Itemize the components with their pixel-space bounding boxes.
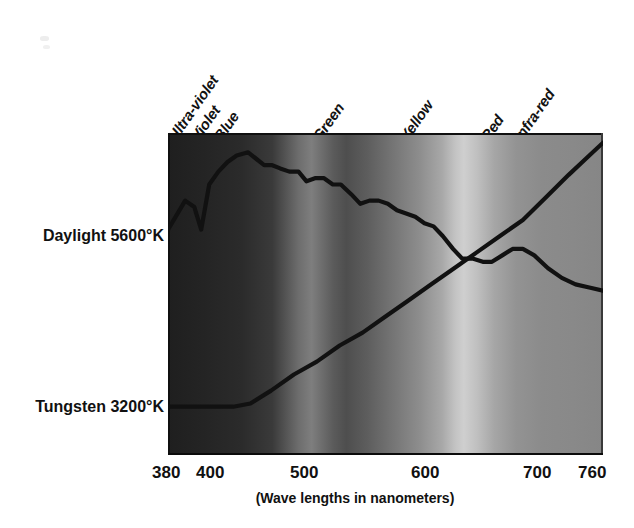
x-axis-caption: (Wave lengths in nanometers) [0, 490, 634, 506]
xtick-600: 600 [411, 463, 439, 483]
xtick-700: 700 [523, 463, 551, 483]
xtick-400: 400 [196, 463, 224, 483]
figure-root: Ultra-violet Violet Blue Green Yellow Re… [0, 0, 634, 528]
plot-area [168, 133, 603, 455]
scan-speckle [43, 45, 50, 49]
xtick-500: 500 [290, 463, 318, 483]
xtick-760: 760 [578, 463, 606, 483]
x-axis-caption-text: (Wave lengths in nanometers) [256, 490, 455, 506]
scan-speckle [40, 36, 49, 41]
series-label-tungsten: Tungsten 3200°K [14, 398, 164, 416]
xtick-380: 380 [152, 463, 180, 483]
curve-daylight [168, 152, 603, 290]
series-label-daylight: Daylight 5600°K [18, 227, 164, 245]
curve-tungsten [168, 143, 603, 407]
curves-layer [168, 133, 603, 455]
